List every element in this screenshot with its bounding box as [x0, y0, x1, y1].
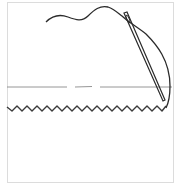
sewing-diagram	[0, 0, 177, 187]
frame-border	[8, 3, 174, 183]
needle-icon	[124, 12, 165, 101]
thread-icon	[46, 7, 170, 108]
fold-line	[7, 87, 172, 88]
zigzag-stitch	[7, 106, 166, 111]
diagram-frame	[0, 0, 177, 187]
